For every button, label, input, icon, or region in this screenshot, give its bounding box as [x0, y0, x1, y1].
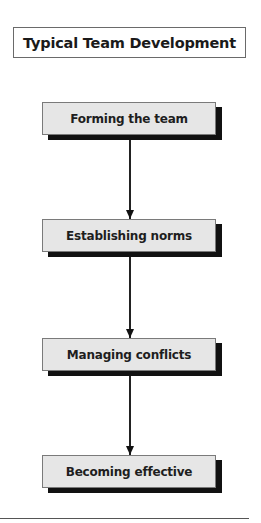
step-managing-conflicts: Managing conflicts — [42, 338, 216, 371]
arrow-down-icon — [129, 257, 131, 338]
step-forming-the-team: Forming the team — [42, 102, 216, 135]
step-label: Managing conflicts — [67, 348, 191, 362]
step-establishing-norms: Establishing norms — [42, 219, 216, 252]
arrow-down-icon — [129, 376, 131, 455]
arrowhead-icon — [126, 329, 134, 338]
arrowhead-icon — [126, 446, 134, 455]
step-label: Establishing norms — [66, 229, 192, 243]
arrowhead-icon — [126, 210, 134, 219]
arrow-down-icon — [129, 140, 131, 219]
diagram-title: Typical Team Development — [23, 35, 236, 51]
diagram-title-box: Typical Team Development — [13, 27, 246, 58]
bottom-divider — [0, 518, 249, 519]
step-label: Becoming effective — [66, 465, 193, 479]
step-becoming-effective: Becoming effective — [42, 455, 216, 488]
step-label: Forming the team — [70, 112, 188, 126]
